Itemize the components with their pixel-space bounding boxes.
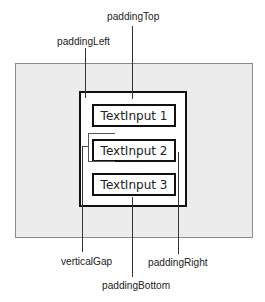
leader-vertical-gap [82, 146, 83, 252]
text-input-3[interactable]: TextInput 3 [92, 173, 176, 196]
gap-bracket-bottom [88, 161, 115, 162]
label-padding-right: paddingRight [148, 256, 208, 268]
leader-padding-right [178, 152, 179, 254]
text-input-1[interactable]: TextInput 1 [92, 104, 176, 127]
label-padding-top: paddingTop [107, 10, 159, 22]
text-input-2-label: TextInput 2 [101, 144, 168, 158]
gap-bracket-top [88, 133, 115, 134]
leader-padding-left [85, 48, 86, 98]
gap-bracket-side [88, 133, 89, 162]
text-input-1-label: TextInput 1 [101, 109, 168, 123]
leader-padding-top [132, 26, 133, 99]
leader-padding-bottom [132, 197, 133, 277]
label-vertical-gap: verticalGap [61, 255, 112, 267]
text-input-2[interactable]: TextInput 2 [92, 139, 176, 162]
label-padding-left: paddingLeft [57, 35, 110, 47]
label-padding-bottom: paddingBottom [102, 279, 170, 291]
text-input-3-label: TextInput 3 [101, 178, 168, 192]
